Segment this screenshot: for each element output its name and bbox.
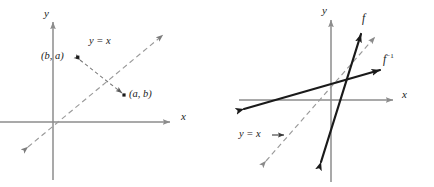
left-point-label-ba: (b, a) (41, 51, 64, 62)
right-curve-label-f: f (362, 13, 365, 25)
left-point-marker-ba (76, 56, 79, 59)
right-f-inverse-exponent: −1 (386, 52, 393, 60)
left-point-label-ab: (a, b) (129, 89, 152, 100)
right-axis-x-label: x (402, 89, 407, 100)
left-line-label-y-equals-x: y = x (89, 36, 111, 47)
left-axis-x-label: x (181, 111, 186, 122)
right-axis-y-label: y (322, 5, 327, 16)
left-axis-y-label: y (44, 8, 49, 19)
point-reflection-diagram: y x y = x (b, a) (a, b) (0, 0, 217, 187)
left-point-marker-ab (122, 93, 125, 96)
left-panel-canvas (0, 0, 217, 187)
right-curve-f (321, 34, 361, 162)
right-line-label-y-equals-x: y = x (239, 129, 261, 140)
left-reflection-segment (80, 60, 122, 93)
figure-root: y x y = x (b, a) (a, b) (0, 0, 434, 187)
function-inverse-diagram: y x f f−1 y = x (217, 0, 434, 187)
right-curve-f-inverse (244, 70, 380, 109)
right-curve-label-f-inverse: f−1 (383, 54, 394, 66)
